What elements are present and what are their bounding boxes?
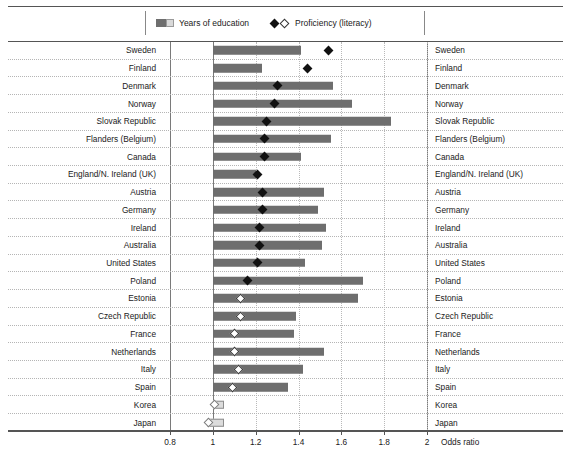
row-label-left: Denmark <box>8 77 162 94</box>
legend-label-proficiency: Proficiency (literacy) <box>295 18 372 28</box>
bar-years-of-education <box>213 276 363 285</box>
chart-row: JapanJapan <box>8 414 563 432</box>
chart-row: KoreaKorea <box>8 396 563 414</box>
axis-tick-label: 0.8 <box>164 437 176 447</box>
bar-years-of-education <box>213 383 288 392</box>
row-label-left: Canada <box>8 148 162 165</box>
chart-legend: Years of education Proficiency (literacy… <box>145 11 425 35</box>
row-plot-area <box>170 148 427 165</box>
row-label-right: Norway <box>427 95 563 112</box>
row-label-right: Finland <box>427 60 563 77</box>
row-plot-area <box>170 396 427 413</box>
bar-years-of-education <box>213 64 262 73</box>
legend-label-years-of-education: Years of education <box>179 18 249 28</box>
bar-years-of-education <box>213 152 301 161</box>
row-plot-area <box>170 95 427 112</box>
row-label-left: Japan <box>8 414 162 432</box>
bar-years-of-education <box>213 117 391 126</box>
row-label-left: England/N. Ireland (UK) <box>8 166 162 183</box>
row-label-left: Spain <box>8 379 162 396</box>
row-label-left: Sweden <box>8 42 162 59</box>
row-plot-area <box>170 166 427 183</box>
row-label-left: Germany <box>8 201 162 218</box>
row-plot-area <box>170 219 427 236</box>
chart-row: GermanyGermany <box>8 201 563 219</box>
row-label-right: Spain <box>427 379 563 396</box>
row-label-left: Finland <box>8 60 162 77</box>
axis-tick <box>299 431 300 435</box>
row-label-right: Australia <box>427 237 563 254</box>
row-label-right: Netherlands <box>427 343 563 360</box>
row-plot-area <box>170 272 427 289</box>
axis-tick <box>427 431 428 435</box>
row-label-right: Flanders (Belgium) <box>427 131 563 148</box>
axis-tick-label: 2 <box>425 437 430 447</box>
row-label-left: Slovak Republic <box>8 113 162 130</box>
bar-years-of-education <box>213 135 331 144</box>
top-rule <box>8 6 563 7</box>
row-label-left: Poland <box>8 272 162 289</box>
chart-row: SpainSpain <box>8 379 563 397</box>
row-label-left: Flanders (Belgium) <box>8 131 162 148</box>
row-plot-area <box>170 77 427 94</box>
bar-years-of-education <box>213 223 327 232</box>
row-label-right: Slovak Republic <box>427 113 563 130</box>
row-plot-area <box>170 184 427 201</box>
row-label-right: United States <box>427 255 563 272</box>
chart-row: FinlandFinland <box>8 60 563 78</box>
chart-row: NorwayNorway <box>8 95 563 113</box>
row-plot-area <box>170 414 427 432</box>
row-label-left: Italy <box>8 361 162 378</box>
chart-row: Flanders (Belgium)Flanders (Belgium) <box>8 131 563 149</box>
row-label-right: France <box>427 326 563 343</box>
bar-years-of-education <box>213 312 297 321</box>
bar-years-of-education <box>213 188 324 197</box>
row-label-right: Germany <box>427 201 563 218</box>
chart-row: Slovak RepublicSlovak Republic <box>8 113 563 131</box>
row-plot-area <box>170 308 427 325</box>
hollow-diamond-icon <box>280 18 290 28</box>
axis-tick <box>384 431 385 435</box>
row-label-right: Denmark <box>427 77 563 94</box>
axis-tick-label: 1.4 <box>293 437 305 447</box>
row-label-left: Czech Republic <box>8 308 162 325</box>
row-plot-area <box>170 379 427 396</box>
row-plot-area <box>170 361 427 378</box>
axis-tick-label: 1.2 <box>250 437 262 447</box>
chart-row: EstoniaEstonia <box>8 290 563 308</box>
x-axis: Odds ratio 0.811.21.41.61.82 <box>8 431 563 463</box>
chart-body: SwedenSwedenFinlandFinlandDenmarkDenmark… <box>8 41 563 431</box>
legend-entry-proficiency: Proficiency (literacy) <box>271 18 372 28</box>
row-plot-area <box>170 60 427 77</box>
chart-rows: SwedenSwedenFinlandFinlandDenmarkDenmark… <box>8 42 563 430</box>
row-label-left: United States <box>8 255 162 272</box>
row-label-left: Ireland <box>8 219 162 236</box>
row-label-right: Estonia <box>427 290 563 307</box>
axis-line <box>8 431 563 432</box>
row-label-right: Czech Republic <box>427 308 563 325</box>
chart-row: AustraliaAustralia <box>8 237 563 255</box>
chart-row: England/N. Ireland (UK)England/N. Irelan… <box>8 166 563 184</box>
row-label-left: Austria <box>8 184 162 201</box>
axis-tick-label: 1.6 <box>336 437 348 447</box>
bar-swatch-icon <box>156 19 174 27</box>
chart-row: FranceFrance <box>8 326 563 344</box>
row-label-right: Sweden <box>427 42 563 59</box>
axis-tick-label: 1.8 <box>378 437 390 447</box>
diamond-swatch-icon <box>271 20 288 27</box>
row-label-right: Japan <box>427 414 563 432</box>
row-plot-area <box>170 113 427 130</box>
marker-proficiency <box>324 45 334 55</box>
chart-row: AustriaAustria <box>8 184 563 202</box>
row-label-right: Austria <box>427 184 563 201</box>
chart-row: PolandPoland <box>8 272 563 290</box>
row-plot-area <box>170 42 427 59</box>
row-label-right: Poland <box>427 272 563 289</box>
axis-title: Odds ratio <box>441 437 479 447</box>
row-label-right: Ireland <box>427 219 563 236</box>
row-plot-area <box>170 255 427 272</box>
marker-proficiency <box>302 63 312 73</box>
row-label-left: Australia <box>8 237 162 254</box>
axis-tick <box>170 431 171 435</box>
row-label-right: England/N. Ireland (UK) <box>427 166 563 183</box>
